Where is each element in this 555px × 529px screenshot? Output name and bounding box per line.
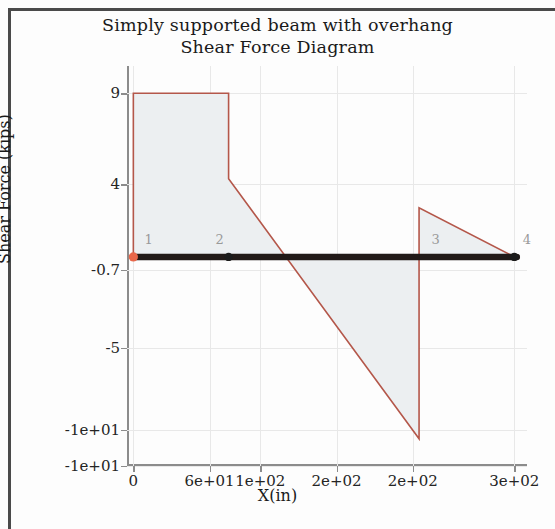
y-axis-title: Shear Force (kips) [0,114,14,264]
chart-title-line-1: Simply supported beam with overhang [0,14,555,36]
gridline-horizontal [127,466,527,467]
y-tick-label: -0.7 [91,261,120,279]
x-axis-title: X(in) [0,486,555,505]
y-tick-label: -1e+01 [65,421,120,439]
page-frame-left-rule [8,8,11,529]
y-tick-label: -1e+01 [65,457,120,475]
chart-title-line-2: Shear Force Diagram [0,36,555,58]
node-label: 4 [523,232,531,247]
shear-force-figure: Simply supported beam with overhang Shea… [0,0,555,529]
shear-area-fill [133,93,514,438]
page-frame-top-rule [8,8,555,11]
node-marker [129,252,138,261]
node-label: 1 [144,232,152,247]
y-tick-label: 4 [110,175,120,193]
y-tick-label: 9 [110,84,120,102]
chart-title: Simply supported beam with overhang Shea… [0,14,555,58]
plot-area: 1234 06e+011e+022e+022e+023e+0294-0.7-5-… [127,66,527,466]
node-marker [510,253,518,261]
node-label: 3 [431,232,439,247]
y-tick [121,466,127,467]
node-marker [224,253,232,261]
y-tick-label: -5 [105,339,120,357]
shear-force-curve [127,66,527,466]
node-label: 2 [216,232,224,247]
